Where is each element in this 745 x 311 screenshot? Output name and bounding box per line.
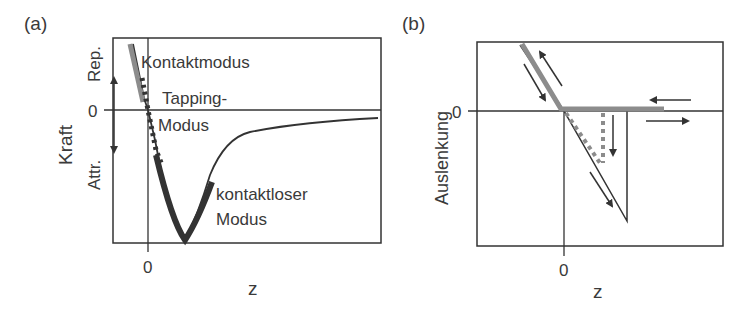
panel-b-frame: [477, 42, 723, 246]
annotation-noncontact-line1: kontaktloser: [216, 185, 308, 204]
panel-b-ylabel: Auslenkung: [432, 111, 452, 205]
panel-a-xlabel: z: [248, 278, 258, 299]
rep-label: Rep.: [85, 46, 104, 82]
attr-label: Attr.: [85, 160, 104, 190]
annotation-contact-mode: Kontaktmodus: [141, 53, 250, 72]
panel-a-y-zero: 0: [88, 102, 97, 121]
panel-b: (b) 0 0 z Auslenkung: [402, 13, 723, 302]
panel-a-x-zero: 0: [143, 258, 152, 277]
panel-b-label: (b): [402, 13, 425, 34]
annotation-noncontact-line2: Modus: [216, 210, 267, 229]
annotation-tapping-line2: Modus: [158, 116, 209, 135]
noncontact-mode-segment: [156, 155, 212, 240]
figure-canvas: (a) 0 0 z Rep. Attr. Kraft Kontaktmodus …: [0, 0, 745, 311]
panel-b-xlabel: z: [593, 281, 603, 302]
panel-b-y-zero: 0: [452, 103, 461, 122]
panel-a-ylabel: Kraft: [55, 124, 76, 165]
annotation-tapping-line1: Tapping-: [162, 89, 227, 108]
panel-b-x-zero: 0: [559, 261, 568, 280]
gray-dotted-curve: [566, 113, 603, 163]
panel-a: (a) 0 0 z Rep. Attr. Kraft Kontaktmodus …: [24, 13, 381, 299]
gray-approach-curve: [522, 44, 664, 109]
panel-a-label: (a): [24, 13, 47, 34]
